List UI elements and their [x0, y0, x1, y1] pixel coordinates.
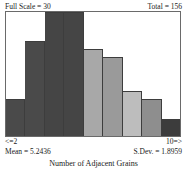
statistics-row: Mean = 5.2436 S.Dev. = 1.8959: [5, 147, 182, 158]
histogram-bar: [142, 99, 161, 136]
sdev-label: S.Dev. = 1.8959: [133, 147, 182, 157]
histogram-bar: [6, 99, 25, 136]
histogram-bar: [45, 12, 64, 136]
histogram-widget: Full Scale = 30 Total = 156 <=2 10=> Mea…: [0, 0, 187, 171]
x-axis-labels: <=2 10=>: [5, 137, 182, 147]
total-label: Total = 156: [147, 3, 182, 11]
histogram-bar: [84, 49, 103, 136]
histogram-bar: [64, 12, 83, 136]
chart-caption: Number of Adjacent Grains: [0, 158, 187, 169]
mean-label: Mean = 5.2436: [5, 147, 51, 157]
full-scale-label: Full Scale = 30: [5, 3, 51, 11]
histogram-bars: [6, 12, 180, 136]
histogram-bar: [162, 119, 180, 136]
x-axis-max-label: 10=>: [166, 137, 182, 146]
histogram-bar: [25, 41, 44, 136]
x-axis-min-label: <=2: [5, 137, 17, 146]
chart-header: Full Scale = 30 Total = 156: [5, 0, 182, 11]
histogram-bar: [123, 91, 142, 136]
plot-area: [5, 11, 181, 137]
histogram-bar: [103, 57, 122, 136]
